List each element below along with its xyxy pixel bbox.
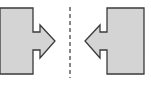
left-arrow-block	[0, 8, 55, 74]
right-arrow-block	[85, 8, 144, 74]
diagram-canvas	[0, 0, 151, 85]
